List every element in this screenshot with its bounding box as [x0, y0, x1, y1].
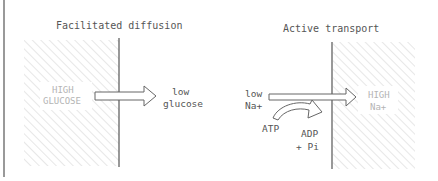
high-glucose-label-2: GLUCOSE [43, 96, 81, 106]
atp-label: ATP [262, 123, 279, 134]
atp-hydrolysis-arrow-icon [273, 100, 322, 120]
low-na-label-2: Na+ [245, 100, 262, 111]
high-glucose-label-1: HIGH [52, 85, 74, 95]
high-na-label-2: Na+ [370, 102, 386, 112]
low-glucose-label-1: low [172, 86, 189, 97]
pi-label: + Pi [296, 141, 319, 152]
facilitated-diffusion-title: Facilitated diffusion [56, 20, 182, 31]
active-transport-panel [269, 42, 415, 169]
active-transport-title: Active transport [283, 23, 379, 34]
adp-label: ADP [301, 128, 318, 139]
low-na-label-1: low [245, 88, 262, 99]
high-na-label-1: HIGH [368, 90, 390, 100]
low-glucose-label-2: glucose [163, 98, 203, 109]
